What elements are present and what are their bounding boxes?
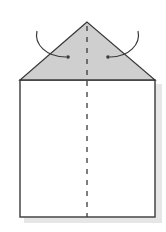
diagram-svg [0,0,166,232]
origami-diagram [0,0,166,232]
